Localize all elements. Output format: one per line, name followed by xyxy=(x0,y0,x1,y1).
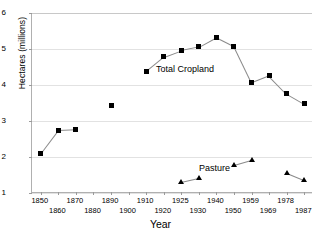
x-axis-tick xyxy=(93,192,94,195)
data-point-marker[interactable] xyxy=(73,127,78,132)
x-axis-tick xyxy=(41,192,42,195)
chart-container: Hectares (millions) Year 654321185018701… xyxy=(0,0,321,240)
y-gridline xyxy=(32,13,312,14)
x-axis-tick-label: 1940 xyxy=(198,197,232,205)
x-axis-tick-label: 1860 xyxy=(40,207,74,215)
x-axis-tick xyxy=(164,192,165,195)
data-point-marker[interactable] xyxy=(38,151,43,156)
y-axis-tick-label: 2 xyxy=(0,153,6,161)
series-line-segment xyxy=(233,46,251,83)
x-axis-tick xyxy=(269,192,270,195)
x-axis-tick-label: 1850 xyxy=(23,197,57,205)
y-axis-tick xyxy=(29,193,32,194)
x-axis-tick-label: 1870 xyxy=(58,197,92,205)
data-point-marker[interactable] xyxy=(249,80,254,85)
x-axis-tick-label: 1930 xyxy=(181,207,215,215)
y-axis-tick-label: 5 xyxy=(0,45,6,53)
data-point-marker[interactable] xyxy=(231,162,237,167)
x-axis-tick-label: 1959 xyxy=(234,197,268,205)
x-axis-tick-label: 1978 xyxy=(269,197,303,205)
x-axis-tick-label: 1880 xyxy=(75,207,109,215)
x-axis-tick xyxy=(199,192,200,195)
data-point-marker[interactable] xyxy=(267,73,272,78)
data-point-marker[interactable] xyxy=(214,35,219,40)
x-axis-tick xyxy=(146,192,147,195)
data-point-marker[interactable] xyxy=(284,170,290,175)
data-point-marker[interactable] xyxy=(231,44,236,49)
x-axis-tick-label: 1950 xyxy=(216,207,250,215)
data-point-marker[interactable] xyxy=(196,44,201,49)
x-axis-tick-label: 1925 xyxy=(163,197,197,205)
series-label-total-cropland: Total Cropland xyxy=(156,64,214,74)
x-axis-tick xyxy=(252,192,253,195)
x-axis-tick xyxy=(111,192,112,195)
x-axis-tick xyxy=(181,192,182,195)
data-point-marker[interactable] xyxy=(249,157,255,162)
y-axis-tick-label: 6 xyxy=(0,9,6,17)
y-gridline xyxy=(32,85,312,86)
series-line-segment xyxy=(41,130,59,154)
x-axis-tick xyxy=(304,192,305,195)
x-axis-tick xyxy=(129,192,130,195)
y-axis-tick-label: 3 xyxy=(0,117,6,125)
x-axis-tick-label: 1920 xyxy=(146,207,180,215)
x-axis-tick xyxy=(216,192,217,195)
x-axis-tick xyxy=(58,192,59,195)
x-axis-tick xyxy=(234,192,235,195)
x-axis-tick xyxy=(287,192,288,195)
data-point-marker[interactable] xyxy=(302,101,307,106)
data-point-marker[interactable] xyxy=(301,177,307,182)
y-axis-tick-label: 4 xyxy=(0,81,6,89)
x-axis-tick-label: 1900 xyxy=(111,207,145,215)
data-point-marker[interactable] xyxy=(284,91,289,96)
y-axis-tick xyxy=(29,49,32,50)
x-axis-tick xyxy=(76,192,77,195)
y-axis-tick-label: 1 xyxy=(0,189,6,197)
y-gridline xyxy=(32,157,312,158)
data-point-marker[interactable] xyxy=(161,54,166,59)
data-point-marker[interactable] xyxy=(56,128,61,133)
data-point-marker[interactable] xyxy=(196,175,202,180)
x-axis-title: Year xyxy=(0,218,321,230)
x-axis-tick-label: 1910 xyxy=(128,197,162,205)
y-axis-tick xyxy=(29,157,32,158)
y-axis-tick xyxy=(29,13,32,14)
y-axis-tick xyxy=(29,85,32,86)
plot-area xyxy=(31,13,312,193)
y-gridline xyxy=(32,49,312,50)
series-label-pasture: Pasture xyxy=(199,163,230,173)
data-point-marker[interactable] xyxy=(178,179,184,184)
y-axis-title: Hectares (millions) xyxy=(17,7,27,99)
data-point-marker[interactable] xyxy=(179,48,184,53)
y-axis-tick xyxy=(29,121,32,122)
data-point-marker[interactable] xyxy=(144,69,149,74)
y-gridline xyxy=(32,121,312,122)
data-point-marker[interactable] xyxy=(109,103,114,108)
x-axis-tick-label: 1890 xyxy=(93,197,127,205)
x-axis-tick-label: 1987 xyxy=(286,207,320,215)
x-axis-tick-label: 1969 xyxy=(251,207,285,215)
